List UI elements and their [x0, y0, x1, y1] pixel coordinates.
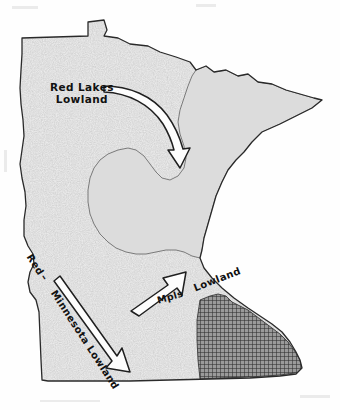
scan-artifact	[196, 4, 216, 7]
label-red-lakes-line1: Red Lakes	[50, 82, 114, 94]
scan-artifact	[40, 400, 100, 402]
label-red-lakes-line2: Lowland	[50, 94, 114, 106]
label-dash-word: –	[48, 272, 53, 283]
scan-artifact	[300, 395, 330, 398]
scan-artifact	[4, 150, 7, 172]
label-red-lakes-lowland: Red Lakes Lowland	[50, 82, 114, 106]
label-red-word: Red	[34, 252, 57, 263]
map-graphic	[0, 0, 340, 410]
label-lowland-southeast: Lowland	[192, 283, 242, 294]
minnesota-physiographic-map: Red Lakes Lowland Red – Minnesota Lowlan…	[0, 0, 340, 410]
scan-artifact	[12, 6, 38, 9]
label-mpls: Mpls	[156, 296, 183, 307]
